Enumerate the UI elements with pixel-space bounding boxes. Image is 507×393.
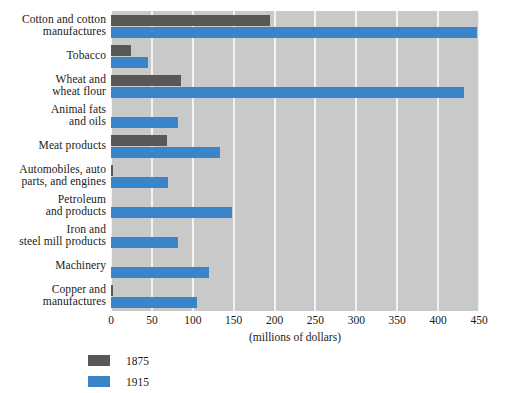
bar-1915 — [111, 237, 178, 248]
x-tick-100: 100 — [173, 314, 213, 326]
category-label: Automobiles, autoparts, and engines — [0, 163, 106, 188]
legend-label-1875: 1875 — [126, 355, 149, 367]
category-label-line: manufactures — [0, 25, 106, 38]
category-label-line: Automobiles, auto — [0, 163, 106, 176]
bar-1915 — [111, 177, 168, 188]
chart-legend: 1875 1915 — [88, 352, 149, 393]
gridline-200 — [274, 11, 276, 311]
bar-1915 — [111, 147, 220, 158]
x-tick-350: 350 — [377, 314, 417, 326]
category-label-line: Tobacco — [0, 49, 106, 62]
gridline-350 — [396, 11, 398, 311]
x-tick-200: 200 — [255, 314, 295, 326]
category-label: Wheat andwheat flour — [0, 73, 106, 98]
category-label: Iron andsteel mill products — [0, 223, 106, 248]
x-tick-250: 250 — [295, 314, 335, 326]
bar-1915 — [111, 207, 232, 218]
category-label-line: Machinery — [0, 259, 106, 272]
category-label-line: and oils — [0, 115, 106, 128]
category-label: Meat products — [0, 139, 106, 152]
category-label: Petroleumand products — [0, 193, 106, 218]
x-tick-50: 50 — [132, 314, 172, 326]
gridline-250 — [314, 11, 316, 311]
legend-item-1875: 1875 — [88, 352, 149, 369]
bar-1875 — [111, 135, 167, 146]
x-tick-300: 300 — [336, 314, 376, 326]
bar-1915 — [111, 117, 178, 128]
category-label-line: Copper and — [0, 283, 106, 296]
category-label: Animal fatsand oils — [0, 103, 106, 128]
category-label: Copper andmanufactures — [0, 283, 106, 308]
legend-item-1915: 1915 — [88, 373, 149, 390]
category-label-line: steel mill products — [0, 235, 106, 248]
bar-1875 — [111, 45, 131, 56]
category-label-line: manufactures — [0, 295, 106, 308]
gridline-400 — [437, 11, 439, 311]
gridline-450 — [478, 11, 479, 311]
category-label-line: Cotton and cotton — [0, 13, 106, 26]
category-label-line: Animal fats — [0, 103, 106, 116]
category-label-line: and products — [0, 205, 106, 218]
category-label-line: Wheat and — [0, 73, 106, 86]
bar-1875 — [111, 75, 181, 86]
bar-1875 — [111, 285, 113, 296]
category-label: Tobacco — [0, 49, 106, 62]
category-label-line: parts, and engines — [0, 175, 106, 188]
bar-1875 — [111, 165, 113, 176]
category-label: Cotton and cottonmanufactures — [0, 13, 106, 38]
bar-chart: Cotton and cottonmanufacturesTobaccoWhea… — [0, 0, 507, 393]
bar-1915 — [111, 297, 197, 308]
category-label-line: Meat products — [0, 139, 106, 152]
category-label: Machinery — [0, 259, 106, 272]
bar-1915 — [111, 267, 209, 278]
legend-swatch-1915 — [88, 376, 110, 387]
category-label-line: Petroleum — [0, 193, 106, 206]
category-label-line: Iron and — [0, 223, 106, 236]
x-tick-150: 150 — [214, 314, 254, 326]
bar-1915 — [111, 27, 477, 38]
legend-swatch-1875 — [88, 355, 110, 366]
plot-area — [111, 11, 479, 311]
bar-1915 — [111, 87, 464, 98]
bar-1875 — [111, 15, 270, 26]
category-label-line: wheat flour — [0, 85, 106, 98]
bar-1915 — [111, 57, 148, 68]
legend-label-1915: 1915 — [126, 376, 149, 388]
x-tick-400: 400 — [418, 314, 458, 326]
gridline-150 — [233, 11, 235, 311]
x-axis-title: (millions of dollars) — [111, 331, 479, 343]
gridline-300 — [355, 11, 357, 311]
x-tick-450: 450 — [459, 314, 499, 326]
x-tick-0: 0 — [91, 314, 131, 326]
